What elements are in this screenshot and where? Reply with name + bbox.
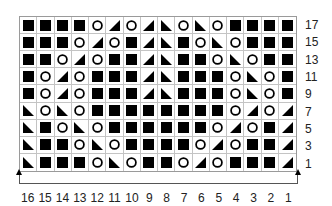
chart-cell <box>262 120 279 137</box>
right-triangle-icon <box>230 122 241 133</box>
black-square-icon <box>212 105 223 116</box>
circle-icon <box>230 71 241 82</box>
chart-cell <box>244 68 261 85</box>
black-square-icon <box>40 37 51 48</box>
left-triangle-icon <box>161 88 172 99</box>
chart-cell <box>89 34 106 51</box>
left-triangle-icon <box>23 122 34 133</box>
chart-cell <box>89 154 106 171</box>
chart-cell <box>262 51 279 68</box>
chart-cell <box>20 51 37 68</box>
right-triangle-icon <box>282 122 293 133</box>
chart-cell <box>262 103 279 120</box>
black-square-icon <box>161 157 172 168</box>
black-square-icon <box>126 105 137 116</box>
chart-cell <box>124 120 141 137</box>
black-square-icon <box>230 20 241 31</box>
chart-cell <box>279 51 296 68</box>
chart-cell <box>55 17 72 34</box>
chart-cell <box>141 68 158 85</box>
right-triangle-icon <box>143 37 154 48</box>
black-square-icon <box>92 105 103 116</box>
left-triangle-icon <box>74 122 85 133</box>
right-triangle-icon <box>143 54 154 65</box>
chart-cell <box>55 120 72 137</box>
black-square-icon <box>109 122 120 133</box>
chart-cell <box>124 85 141 102</box>
chart-cell <box>193 34 210 51</box>
black-square-icon <box>57 139 68 150</box>
chart-cell <box>244 103 261 120</box>
black-square-icon <box>282 88 293 99</box>
black-square-icon <box>282 37 293 48</box>
chart-cell <box>89 51 106 68</box>
circle-icon <box>247 54 258 65</box>
black-square-icon <box>264 54 275 65</box>
chart-cell <box>55 103 72 120</box>
chart-cell <box>227 120 244 137</box>
left-triangle-icon <box>57 105 68 116</box>
chart-cell <box>72 68 89 85</box>
row-label: 15 <box>305 36 318 48</box>
left-triangle-icon <box>247 88 258 99</box>
chart-cell <box>262 154 279 171</box>
chart-cell <box>124 154 141 171</box>
chart-cell <box>141 120 158 137</box>
chart-cell <box>210 103 227 120</box>
chart-cell <box>193 103 210 120</box>
black-square-icon <box>74 157 85 168</box>
chart-cell <box>175 103 192 120</box>
chart-cell <box>158 103 175 120</box>
circle-icon <box>195 139 206 150</box>
chart-cell <box>158 51 175 68</box>
left-arrow-icon <box>16 169 22 175</box>
black-square-icon <box>178 139 189 150</box>
circle-icon <box>230 105 241 116</box>
chart-cell <box>210 34 227 51</box>
right-triangle-icon <box>109 20 120 31</box>
black-square-icon <box>109 105 120 116</box>
chart-cell <box>124 51 141 68</box>
chart-cell <box>141 51 158 68</box>
circle-icon <box>57 54 68 65</box>
chart-cell <box>89 85 106 102</box>
circle-icon <box>195 37 206 48</box>
chart-cell <box>210 51 227 68</box>
circle-icon <box>109 139 120 150</box>
left-triangle-icon <box>92 139 103 150</box>
chart-cell <box>244 51 261 68</box>
chart-cell <box>106 51 123 68</box>
chart-cell <box>279 120 296 137</box>
circle-icon <box>92 122 103 133</box>
black-square-icon <box>57 37 68 48</box>
circle-icon <box>178 20 189 31</box>
chart-cell <box>37 103 54 120</box>
chart-cell <box>193 154 210 171</box>
black-square-icon <box>195 54 206 65</box>
chart-cell <box>262 137 279 154</box>
chart-cell <box>227 85 244 102</box>
left-triangle-icon <box>161 37 172 48</box>
black-square-icon <box>282 20 293 31</box>
chart-cell <box>20 68 37 85</box>
right-triangle-icon <box>92 37 103 48</box>
chart-cell <box>210 120 227 137</box>
circle-icon <box>126 157 137 168</box>
chart-cell <box>175 85 192 102</box>
black-square-icon <box>126 71 137 82</box>
left-triangle-icon <box>230 54 241 65</box>
chart-cell <box>106 154 123 171</box>
circle-icon <box>92 20 103 31</box>
right-triangle-icon <box>143 71 154 82</box>
chart-cell <box>20 34 37 51</box>
chart-cell <box>89 17 106 34</box>
black-square-icon <box>264 157 275 168</box>
black-square-icon <box>195 88 206 99</box>
chart-cell <box>106 120 123 137</box>
circle-icon <box>247 122 258 133</box>
chart-cell <box>193 120 210 137</box>
chart-cell <box>55 137 72 154</box>
black-square-icon <box>126 139 137 150</box>
black-square-icon <box>178 88 189 99</box>
chart-cell <box>37 120 54 137</box>
